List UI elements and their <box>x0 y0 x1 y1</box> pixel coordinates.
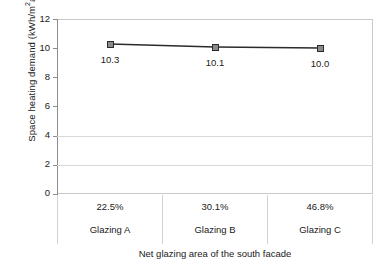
x-axis-pct-glazing-a: 22.5% <box>97 201 124 213</box>
data-point-marker-glazing-c[interactable] <box>317 45 324 52</box>
x-axis-cell-glazing-c: 46.8% Glazing C <box>267 195 373 244</box>
data-label-glazing-b: 10.1 <box>195 57 235 68</box>
y-axis-title-superscript: 2 <box>24 2 31 6</box>
x-axis-pct-glazing-c: 46.8% <box>307 201 334 213</box>
y-tick-label-4: 4 <box>26 130 50 140</box>
data-label-glazing-c: 10.0 <box>300 58 340 69</box>
x-axis-name-glazing-c: Glazing C <box>299 224 341 236</box>
y-axis-line <box>57 19 58 195</box>
x-axis-name-glazing-b: Glazing B <box>194 224 235 236</box>
data-point-marker-glazing-a[interactable] <box>107 41 114 48</box>
x-axis-title: Net glazing area of the south facade <box>57 248 373 259</box>
y-tick-label-12: 12 <box>26 14 50 24</box>
y-tick-label-10: 10 <box>26 43 50 53</box>
y-tick-label-8: 8 <box>26 72 50 82</box>
y-tick-label-6: 6 <box>26 101 50 111</box>
y-tick-label-0: 0 <box>26 188 50 198</box>
x-axis-pct-glazing-b: 30.1% <box>202 201 229 213</box>
gridline-2 <box>57 165 373 166</box>
x-axis-cell-glazing-b: 30.1% Glazing B <box>162 195 267 244</box>
gridline-4 <box>57 136 373 137</box>
x-axis-name-glazing-a: Glazing A <box>90 224 131 236</box>
x-axis-cell-glazing-a: 22.5% Glazing A <box>57 195 162 244</box>
y-axis-title-suffix: a) <box>26 0 37 2</box>
chart-figure: Space heating demand (kWh/m2a) 12 10 8 6… <box>0 0 388 269</box>
x-axis-category-table: 22.5% Glazing A 30.1% Glazing B 46.8% Gl… <box>57 195 373 244</box>
data-point-marker-glazing-b[interactable] <box>212 44 219 51</box>
data-label-glazing-a: 10.3 <box>90 54 130 65</box>
y-tick-label-2: 2 <box>26 159 50 169</box>
